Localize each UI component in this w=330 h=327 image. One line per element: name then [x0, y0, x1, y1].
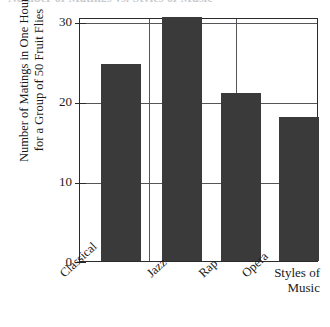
bar-rap [221, 93, 261, 261]
x-axis-label: Styles of Music [200, 266, 320, 296]
y-tickmark-30 [75, 23, 81, 24]
bar-jazz [162, 17, 202, 261]
x-axis-label-line-1: Styles of [200, 266, 320, 281]
bar-classical [101, 64, 141, 261]
plot-area [79, 18, 318, 262]
y-tick-label-20: 20 [38, 94, 72, 110]
x-axis-label-line-2: Music [200, 281, 320, 296]
y-tick-label-30: 30 [38, 14, 72, 30]
bar-opera [279, 117, 319, 261]
y-axis-label-line-1: Number of Matings in One Hour [17, 0, 32, 162]
bar-series [80, 19, 317, 261]
y-tick-label-10: 10 [38, 174, 72, 190]
bar-chart-figure: Number of Matings vs. Styles of Music Nu… [0, 0, 330, 327]
y-tickmark-20 [75, 103, 81, 104]
y-tickmark-10 [75, 183, 81, 184]
